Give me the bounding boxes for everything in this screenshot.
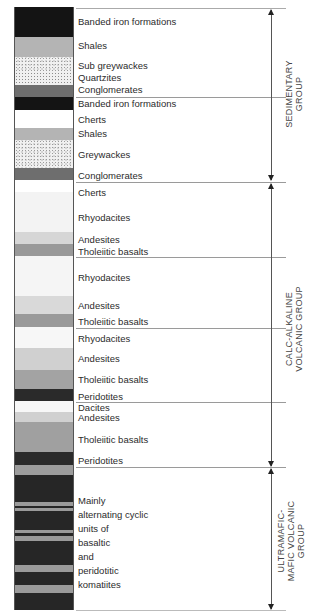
calc-alkaline-bracket-line bbox=[271, 184, 272, 466]
group-label-line: ULTRAMAFIC- bbox=[276, 496, 286, 586]
komatiite-line: komatiites bbox=[78, 578, 148, 592]
band-dacites bbox=[15, 401, 73, 412]
ultramafic-bracket-line bbox=[271, 469, 272, 609]
band-tholeiitic-1 bbox=[15, 244, 73, 256]
group-label-line: SEDIMENTARY bbox=[284, 54, 294, 134]
group-label-sedimentary: SEDIMENTARY GROUP bbox=[284, 54, 306, 134]
arrow-down-icon bbox=[268, 604, 274, 610]
label-komatiites: Mainly alternating cyclic units of basal… bbox=[78, 494, 148, 592]
band-banded-iron-2 bbox=[15, 97, 73, 110]
band-greywackes bbox=[15, 140, 73, 168]
top-line bbox=[76, 8, 286, 9]
label-banded-iron-1: Banded iron formations bbox=[78, 16, 176, 27]
komatiite-line: Mainly bbox=[78, 494, 148, 508]
band-quartzites bbox=[15, 72, 73, 85]
label-tholeiitic-1: Tholeiitic basalts bbox=[78, 246, 148, 257]
label-tholeiitic-2: Tholeiitic basalts bbox=[78, 316, 148, 327]
komatiite-line: basaltic bbox=[78, 536, 148, 550]
band-komatiite-stripe bbox=[15, 502, 73, 506]
label-cherts-2: Cherts bbox=[78, 187, 106, 198]
band-peridotites-1 bbox=[15, 389, 73, 401]
label-shales-1: Shales bbox=[78, 40, 107, 51]
komatiite-line: units of bbox=[78, 522, 148, 536]
band-komatiite-stripe bbox=[15, 508, 73, 511]
arrow-down-icon bbox=[268, 175, 274, 181]
label-conglomerates-1: Conglomerates bbox=[78, 84, 142, 95]
band-sub-greywackes bbox=[15, 57, 73, 72]
label-tholeiitic-4: Tholeiitic basalts bbox=[78, 434, 148, 445]
arrow-up-icon bbox=[268, 9, 274, 15]
label-peridotites-2: Peridotites bbox=[78, 455, 123, 466]
band-komatiite-stripe bbox=[15, 585, 73, 593]
group-label-line: GROUP bbox=[294, 54, 304, 134]
group-label-line: CALC-ALKALINE bbox=[284, 284, 294, 374]
arrow-up-icon bbox=[268, 468, 274, 474]
band-conglomerates-2 bbox=[15, 168, 73, 180]
label-andesites-1: Andesites bbox=[78, 234, 120, 245]
label-andesites-2: Andesites bbox=[78, 300, 120, 311]
band-rhyodacites-1 bbox=[15, 192, 73, 232]
band-andesites-1 bbox=[15, 232, 73, 244]
band-cherts-1 bbox=[15, 110, 73, 128]
label-cherts-1: Cherts bbox=[78, 114, 106, 125]
label-conglomerates-2: Conglomerates bbox=[78, 170, 142, 181]
bottom-line bbox=[76, 610, 286, 611]
band-tholeiitic-2 bbox=[15, 314, 73, 327]
band-rhyodacites-2 bbox=[15, 256, 73, 296]
arrow-down-icon bbox=[268, 461, 274, 467]
band-andesites-3 bbox=[15, 348, 73, 370]
group-label-line: VOLCANIC GROUP bbox=[294, 284, 304, 374]
band-tholeiitic-3 bbox=[15, 370, 73, 389]
band-andesites-4 bbox=[15, 412, 73, 422]
band-komatiite-stripe bbox=[15, 530, 73, 533]
band-andesites-2 bbox=[15, 296, 73, 314]
label-sub-greywackes: Sub greywackes bbox=[78, 60, 148, 71]
band-banded-iron-1 bbox=[15, 7, 73, 37]
label-quartzites: Quartzites bbox=[78, 72, 121, 83]
divider-sedimentary-base bbox=[76, 182, 286, 183]
label-tholeiitic-3: Tholeiitic basalts bbox=[78, 374, 148, 385]
label-andesites-4: Andesites bbox=[78, 412, 120, 423]
label-andesites-3: Andesites bbox=[78, 353, 120, 364]
label-greywackes: Greywackes bbox=[78, 149, 130, 160]
band-conglomerates-1 bbox=[15, 85, 73, 97]
label-shales-2: Shales bbox=[78, 128, 107, 139]
sedimentary-bracket-line bbox=[271, 10, 272, 180]
band-peridotites-2 bbox=[15, 452, 73, 465]
label-rhyodacites-2: Rhyodacites bbox=[78, 272, 130, 283]
band-tholeiitic-4 bbox=[15, 422, 73, 452]
band-komatiite-stripe bbox=[15, 565, 73, 572]
divider bbox=[76, 328, 286, 329]
divider bbox=[76, 257, 286, 258]
label-banded-iron-2: Banded iron formations bbox=[78, 98, 176, 109]
group-label-line: GROUP bbox=[296, 496, 306, 586]
band-shales-2 bbox=[15, 128, 73, 140]
stratigraphic-column bbox=[14, 7, 74, 610]
arrow-up-icon bbox=[268, 183, 274, 189]
group-label-calc-alkaline: CALC-ALKALINE VOLCANIC GROUP bbox=[284, 284, 306, 374]
komatiite-line: peridotitic bbox=[78, 564, 148, 578]
band-komatiite-gray-top bbox=[15, 465, 73, 475]
label-rhyodacites-1: Rhyodacites bbox=[78, 212, 130, 223]
komatiite-line: alternating cyclic bbox=[78, 508, 148, 522]
band-komatiite-stripe bbox=[15, 536, 73, 541]
band-cherts-2 bbox=[15, 180, 73, 192]
group-label-ultramafic: ULTRAMAFIC- MAFIC VOLCANIC GROUP bbox=[276, 496, 308, 586]
label-peridotites-1: Peridotites bbox=[78, 391, 123, 402]
band-rhyodacites-3 bbox=[15, 327, 73, 348]
group-label-line: MAFIC VOLCANIC bbox=[286, 496, 296, 586]
band-shales-1 bbox=[15, 37, 73, 57]
divider-calc-alkaline-base bbox=[76, 467, 286, 468]
komatiite-line: and bbox=[78, 550, 148, 564]
label-rhyodacites-3: Rhyodacites bbox=[78, 333, 130, 344]
